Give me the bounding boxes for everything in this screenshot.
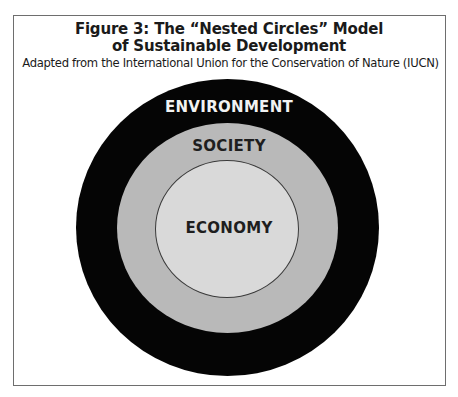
economy-label: ECONOMY [0,220,458,236]
environment-label: ENVIRONMENT [0,99,458,115]
figure-title-line2: of Sustainable Development [0,38,458,55]
figure-title-line1: Figure 3: The “Nested Circles” Model [0,21,458,38]
figure-subtitle: Adapted from the International Union for… [15,56,446,70]
society-label: SOCIETY [0,138,458,154]
